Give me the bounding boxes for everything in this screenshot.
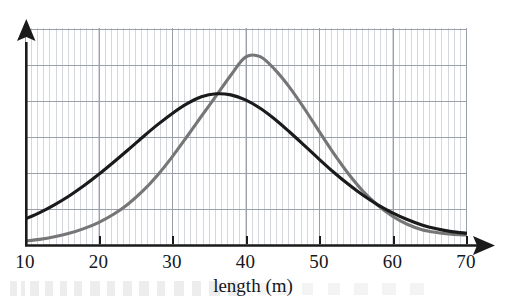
x-axis-tick-label: 70 <box>456 252 475 271</box>
x-axis-tick-label: 10 <box>15 252 34 271</box>
x-axis-tick-label: 30 <box>162 252 181 271</box>
x-axis-tick-label: 50 <box>309 252 328 271</box>
chart-figure: 10203040506070 length (m) <box>0 0 506 305</box>
x-axis-tick-label: 40 <box>236 252 255 271</box>
x-axis-title: length (m) <box>213 276 293 295</box>
x-axis-tick-label: 60 <box>383 252 402 271</box>
x-axis-tick-label: 20 <box>89 252 108 271</box>
